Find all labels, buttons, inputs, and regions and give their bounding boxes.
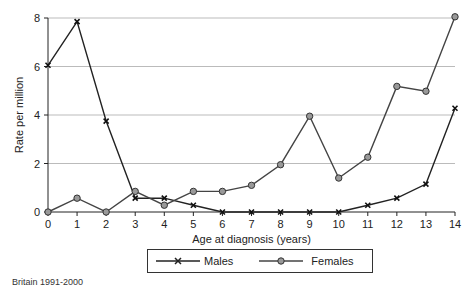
circle-marker	[190, 188, 196, 194]
x-tick-label: 14	[449, 218, 461, 230]
x-tick-label: 12	[391, 218, 403, 230]
circle-marker	[74, 195, 80, 201]
x-tick-label: 13	[420, 218, 432, 230]
circle-marker	[161, 202, 167, 208]
x-tick-label: 4	[161, 218, 167, 230]
y-tick-label: 4	[34, 109, 40, 121]
y-tick-label: 6	[34, 61, 40, 73]
circle-marker	[103, 209, 109, 215]
legend-label-females: Females	[311, 255, 353, 267]
y-axis-title: Rate per million	[13, 77, 25, 153]
legend-item-females: Females	[259, 255, 353, 267]
x-tick-label: 6	[219, 218, 225, 230]
circle-marker	[365, 154, 371, 160]
legend-item-males: Males	[156, 255, 233, 267]
circle-marker	[423, 88, 429, 94]
circle-marker-icon	[259, 256, 303, 266]
line-chart: 0246801234567891011121314Age at diagnosi…	[0, 0, 474, 289]
circle-marker	[452, 14, 458, 20]
circle-marker	[219, 188, 225, 194]
x-axis-title: Age at diagnosis (years)	[192, 233, 311, 245]
x-tick-label: 11	[362, 218, 373, 230]
x-tick-label: 1	[74, 218, 80, 230]
circle-marker	[306, 113, 312, 119]
x-marker-icon	[156, 256, 200, 266]
x-tick-label: 2	[103, 218, 109, 230]
y-tick-label: 8	[34, 12, 40, 24]
circle-marker	[336, 175, 342, 181]
x-tick-label: 7	[248, 218, 254, 230]
x-tick-label: 0	[45, 218, 51, 230]
x-tick-label: 5	[190, 218, 196, 230]
legend: Males Females	[147, 249, 373, 273]
circle-marker	[45, 209, 51, 215]
x-tick-label: 10	[333, 218, 345, 230]
circle-marker	[248, 182, 254, 188]
y-tick-label: 0	[34, 206, 40, 218]
x-tick-label: 8	[278, 218, 284, 230]
circle-marker	[394, 83, 400, 89]
legend-label-males: Males	[204, 255, 233, 267]
y-tick-label: 2	[34, 158, 40, 170]
x-tick-label: 3	[132, 218, 138, 230]
circle-marker	[277, 162, 283, 168]
x-tick-label: 9	[307, 218, 313, 230]
source-note: Britain 1991-2000	[12, 277, 83, 287]
circle-marker	[132, 188, 138, 194]
